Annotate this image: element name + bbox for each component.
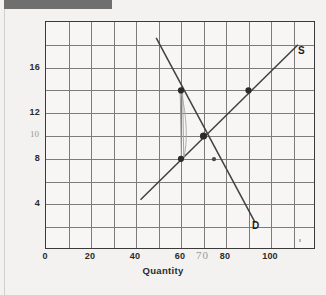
demand-curve	[156, 38, 255, 223]
data-point-demand-60-14	[178, 87, 184, 93]
xtick-20: 20	[85, 251, 95, 261]
xtick-60: 60	[175, 251, 185, 261]
supply-curve-label: S	[298, 45, 305, 56]
xtick-80: 80	[220, 251, 230, 261]
supply-demand-chart: S D 0 20 40 60 80 100 4 8 12 16 10 70 Qu…	[0, 0, 326, 295]
handwritten-y-value-10: 10	[30, 129, 39, 139]
curves-layer	[46, 22, 316, 250]
scan-speck	[299, 239, 301, 242]
ytick-16: 16	[30, 62, 40, 72]
x-axis-label: Quantity	[0, 265, 326, 276]
xtick-40: 40	[130, 251, 140, 261]
data-point-supply-60-8	[178, 156, 184, 162]
handwritten-vertical-segment	[180, 90, 181, 158]
demand-curve-label: D	[252, 220, 259, 231]
xtick-100: 100	[262, 251, 278, 261]
handwritten-dot-75-8	[212, 157, 216, 161]
ytick-4: 4	[35, 198, 40, 208]
ytick-12: 12	[30, 107, 40, 117]
supply-curve	[141, 45, 299, 200]
xtick-0: 0	[42, 251, 47, 261]
handwritten-x-value-70: 70	[196, 249, 209, 261]
data-point-equilibrium-70-10	[200, 132, 207, 139]
ytick-8: 8	[35, 153, 40, 163]
scanned-page-background: S D 0 20 40 60 80 100 4 8 12 16 10 70 Qu…	[0, 0, 326, 295]
data-point-supply-90-14	[245, 87, 251, 93]
plot-area: S D	[45, 21, 315, 249]
